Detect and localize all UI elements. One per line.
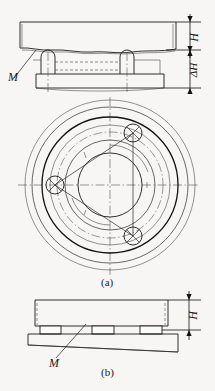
base-plate-b-taper bbox=[28, 345, 178, 352]
tick-mark-1 bbox=[84, 152, 86, 158]
arc-chamfer-lower bbox=[72, 198, 110, 225]
tick-mark-2 bbox=[84, 210, 86, 215]
dimension-group-a bbox=[164, 14, 201, 94]
arrow-deltaH-bottom bbox=[187, 88, 192, 94]
engineering-drawing-figure: .solid{fill:none;stroke:#1a1a1a;stroke-w… bbox=[0, 0, 215, 391]
base-plate-a bbox=[36, 74, 164, 88]
workpiece-plate-outline bbox=[20, 22, 176, 49]
arrow-Hb-bottom bbox=[186, 330, 191, 336]
view-a-plan bbox=[18, 97, 200, 275]
arrow-deltaH-top bbox=[187, 46, 192, 52]
arc-chamfer-upper bbox=[110, 145, 148, 172]
support-block-3 bbox=[140, 326, 162, 334]
caption-b: (b) bbox=[101, 366, 114, 378]
post-shelf-right bbox=[134, 60, 160, 74]
arrow-H-top bbox=[187, 16, 192, 22]
support-block-1 bbox=[40, 326, 61, 334]
support-block-2 bbox=[92, 326, 114, 334]
label-H-top: H bbox=[187, 33, 202, 42]
workpiece-plate-b bbox=[35, 300, 168, 326]
label-delta-H: ΔH bbox=[187, 63, 199, 77]
view-a-elevation bbox=[14, 22, 176, 92]
view-b-elevation bbox=[28, 300, 178, 358]
label-M-top: M bbox=[8, 70, 18, 85]
caption-a: (a) bbox=[101, 276, 113, 288]
circle-inner-shoulder bbox=[65, 140, 155, 230]
base-plate-b bbox=[28, 334, 178, 352]
arrow-Hb-top bbox=[186, 294, 191, 300]
clamp-triangle bbox=[55, 133, 133, 236]
label-M-bottom: M bbox=[49, 356, 59, 371]
label-H-bottom: H bbox=[186, 311, 201, 320]
